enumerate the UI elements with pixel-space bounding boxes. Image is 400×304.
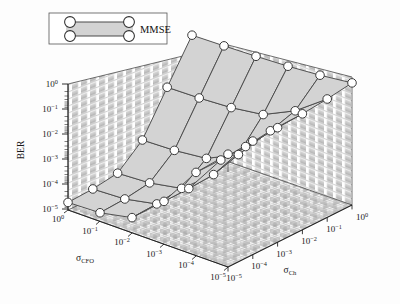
surface-data-marker: [316, 71, 325, 80]
legend-box[interactable]: MMSE: [49, 13, 171, 44]
z-axis-label: BER: [16, 140, 26, 159]
surface-data-marker: [170, 146, 179, 155]
surface-data-marker: [195, 94, 204, 103]
x-tick-label-4: 10−4: [178, 259, 195, 270]
surface-data-marker: [202, 154, 211, 163]
surface-data-marker: [145, 179, 154, 188]
surface-data-marker: [227, 103, 236, 112]
x-tick-label-3: 10−3: [146, 248, 162, 259]
legend-label-mmse: MMSE: [140, 24, 171, 35]
surface-data-marker: [113, 169, 122, 178]
surface-data-marker: [209, 170, 218, 179]
surface-data-marker: [188, 31, 197, 40]
x-tick-label-5: 10−5: [210, 271, 226, 282]
surface-data-marker: [323, 95, 332, 104]
x-tick-label-1: 10−1: [82, 225, 98, 236]
x-tick-label-0: 100: [52, 213, 64, 224]
figure-canvas: 100 10−1 10−2 10−3 10−4 10−5 BER 100 10−…: [0, 0, 400, 304]
surface-data-marker: [96, 208, 105, 217]
legend-surface-patch: [66, 22, 133, 36]
surface-data-marker: [298, 110, 307, 119]
surface-data-marker: [220, 42, 229, 51]
z-tick-label-2: 10−2: [42, 128, 58, 139]
surface-data-marker: [241, 142, 250, 151]
surface-plot-svg: 100 10−1 10−2 10−3 10−4 10−5 BER 100 10−…: [0, 0, 400, 304]
z-tick-label-0: 100: [46, 78, 58, 89]
z-tick-label-4: 10−4: [42, 178, 59, 189]
z-axis: 100 10−1 10−2 10−3 10−4 10−5 BER: [16, 78, 68, 214]
surface-data-marker: [273, 123, 282, 132]
surface-data-marker: [284, 62, 293, 71]
surface-data-marker: [234, 150, 243, 159]
y-tick-label-0: 10−5: [226, 272, 242, 283]
y-tick-label-1: 10−4: [251, 260, 268, 271]
y-tick-label-2: 10−3: [276, 248, 292, 259]
y-tick-label-3: 10−2: [301, 235, 317, 246]
z-tick-label-5: 10−5: [42, 203, 58, 214]
z-tick-label-1: 10−1: [42, 103, 58, 114]
surface-data-marker: [259, 110, 268, 119]
surface-data-marker: [224, 150, 233, 159]
y-axis-label: σCh: [284, 265, 298, 276]
surface-data-marker: [185, 184, 194, 193]
y-tick-label-5: 100: [356, 211, 368, 222]
surface-data-marker: [249, 137, 258, 146]
y-tick-label-4: 10−1: [326, 223, 342, 234]
surface-data-marker: [252, 52, 261, 61]
x-axis-label: σCFO: [76, 253, 94, 264]
surface-data-marker: [138, 136, 147, 145]
z-tick-label-3: 10−3: [42, 153, 58, 164]
surface-data-marker: [64, 198, 73, 207]
surface-data-marker: [89, 185, 98, 194]
surface-data-marker: [163, 83, 172, 92]
surface-data-marker: [348, 79, 357, 88]
surface-data-marker: [217, 156, 226, 165]
surface-data-marker: [121, 195, 130, 204]
surface-data-marker: [128, 213, 137, 222]
surface-data-marker: [160, 197, 169, 206]
surface-data-marker: [192, 168, 201, 177]
x-tick-label-2: 10−2: [114, 236, 130, 247]
